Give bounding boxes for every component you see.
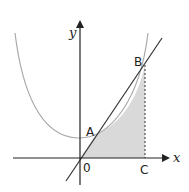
point-b-label: B [134,55,142,69]
y-axis-label: y [68,25,77,40]
function-graph: y x 0 A B C [0,0,189,192]
x-axis-label: x [173,150,181,165]
point-c-label: C [140,163,148,177]
origin-label: 0 [83,161,91,175]
point-a-label: A [86,125,95,139]
